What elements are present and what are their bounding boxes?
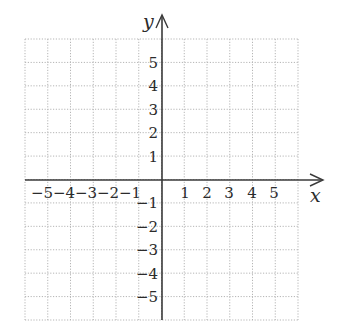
y-tick-label: −5 — [136, 288, 158, 306]
x-tick-label: −3 — [75, 184, 97, 202]
y-axis-label: y — [142, 10, 154, 32]
x-tick-label: 4 — [247, 184, 257, 202]
y-tick-label: −4 — [136, 265, 158, 283]
x-axis-label: x — [310, 184, 321, 206]
y-tick-label: 2 — [148, 124, 158, 142]
y-tick-label: 5 — [148, 54, 158, 72]
y-tick-label: 3 — [148, 101, 158, 119]
y-tick-label: −1 — [136, 194, 158, 212]
x-tick-label: −5 — [31, 184, 53, 202]
y-tick-label: 1 — [148, 148, 158, 166]
coordinate-plane: x y −5 −4 −3 −2 −1 1 2 3 4 5 5 4 3 2 1 −… — [0, 0, 342, 332]
x-tick-label: 5 — [269, 184, 279, 202]
x-tick-label: 3 — [224, 184, 234, 202]
y-tick-label: −3 — [136, 241, 158, 259]
y-tick-label: 4 — [148, 77, 158, 95]
y-tick-label: −2 — [136, 218, 158, 236]
x-tick-label: −4 — [53, 184, 75, 202]
x-tick-label: −2 — [97, 184, 119, 202]
x-tick-label: 1 — [180, 184, 190, 202]
x-tick-label: 2 — [202, 184, 212, 202]
